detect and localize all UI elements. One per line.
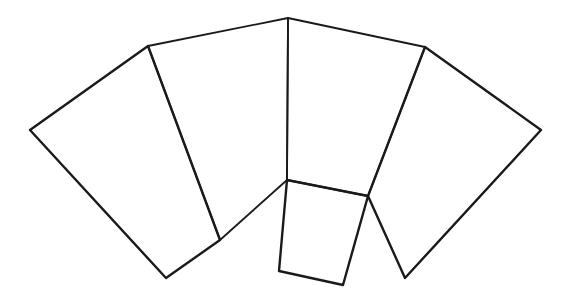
center-right-face bbox=[287, 18, 425, 196]
base-face bbox=[279, 180, 368, 285]
center-left-face bbox=[148, 18, 288, 240]
diagram-canvas bbox=[0, 0, 571, 299]
faces-group bbox=[30, 18, 541, 285]
polyhedron-net bbox=[0, 0, 571, 299]
right-face bbox=[368, 47, 541, 278]
